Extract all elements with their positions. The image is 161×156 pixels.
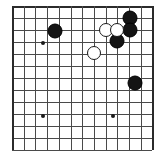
star-point-lower-left	[41, 114, 45, 118]
black-stone-right-middle	[127, 75, 142, 90]
grid-line-vertical-1	[24, 6, 25, 150]
grid-line-vertical-12	[152, 6, 154, 150]
star-point-upper-left	[41, 41, 45, 45]
grid-line-vertical-7	[94, 6, 95, 150]
goban-grid	[0, 0, 161, 156]
black-stone-upper-left	[48, 24, 63, 39]
grid-line-vertical-2	[35, 6, 36, 150]
grid-line-vertical-6	[82, 6, 83, 150]
grid-line-vertical-5	[71, 6, 72, 150]
white-stone-right	[110, 23, 124, 37]
go-board-figure	[0, 0, 161, 156]
grid-line-vertical-0	[12, 6, 14, 150]
grid-line-horizontal-12	[12, 150, 152, 151]
star-point-lower-right	[111, 114, 115, 118]
white-stone-lower	[87, 46, 101, 60]
black-stone-top-right-lower	[123, 23, 138, 38]
